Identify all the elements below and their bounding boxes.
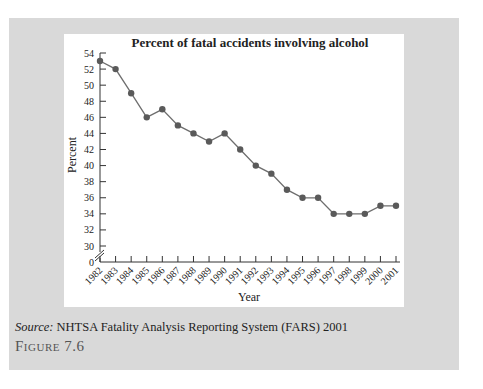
source-label: Source: — [15, 320, 53, 334]
y-axis: 030323436384042444648505254 — [84, 48, 106, 268]
y-tick-label: 0 — [89, 257, 94, 268]
data-point — [299, 195, 305, 201]
y-tick-label: 50 — [84, 80, 94, 91]
figure-word: Figure — [15, 338, 60, 354]
y-tick-label: 30 — [84, 241, 94, 252]
data-point — [330, 211, 336, 217]
data-point — [112, 66, 118, 72]
data-point — [97, 58, 103, 64]
y-tick-label: 40 — [84, 160, 94, 171]
data-point — [221, 130, 227, 136]
y-tick-label: 38 — [84, 176, 94, 187]
data-point — [362, 211, 368, 217]
data-point — [175, 122, 181, 128]
y-tick-label: 46 — [84, 112, 94, 123]
y-tick-label: 42 — [84, 144, 94, 155]
x-axis: 1982198319841985198619871988198919901991… — [82, 256, 400, 287]
data-point — [393, 203, 399, 209]
y-tick-label: 52 — [84, 64, 94, 75]
y-tick-label: 34 — [84, 208, 94, 219]
series-line — [100, 61, 396, 214]
y-tick-label: 54 — [84, 48, 94, 59]
data-point — [144, 114, 150, 120]
data-point — [346, 211, 352, 217]
y-tick-label: 32 — [84, 224, 94, 235]
data-markers — [97, 58, 399, 217]
y-tick-label: 36 — [84, 192, 94, 203]
x-tick-label: 2001 — [378, 265, 400, 287]
data-point — [315, 195, 321, 201]
data-point — [237, 146, 243, 152]
data-point — [284, 187, 290, 193]
y-axis-label: Percent — [65, 136, 79, 173]
y-tick-label: 44 — [84, 128, 94, 139]
data-point — [128, 90, 134, 96]
x-axis-label: Year — [238, 290, 260, 304]
data-point — [159, 106, 165, 112]
figure-number: 7.6 — [60, 338, 85, 354]
figure-caption: Figure 7.6 — [15, 338, 84, 355]
data-point — [190, 130, 196, 136]
data-point — [253, 162, 259, 168]
data-point — [268, 170, 274, 176]
source-text: NHTSA Fatality Analysis Reporting System… — [53, 320, 348, 334]
chart-title: Percent of fatal accidents involving alc… — [132, 35, 369, 50]
source-note: Source: NHTSA Fatality Analysis Reportin… — [15, 320, 348, 335]
data-point — [377, 203, 383, 209]
data-point — [206, 138, 212, 144]
y-tick-label: 48 — [84, 96, 94, 107]
